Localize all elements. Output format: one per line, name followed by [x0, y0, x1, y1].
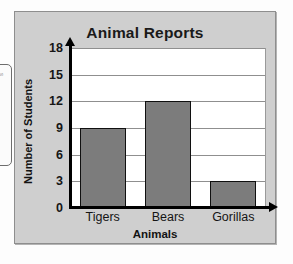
y-axis-tick-label: 15	[35, 68, 63, 81]
x-axis-line	[70, 206, 271, 209]
x-axis-title: Animals	[55, 228, 255, 240]
chart-panel: Animal Reports Number of Students 036912…	[14, 11, 276, 244]
y-axis-tick-label: 18	[35, 42, 63, 55]
y-axis-tick-label: 0	[35, 202, 63, 215]
plot-area	[70, 48, 266, 208]
chart-title: Animal Reports	[15, 24, 275, 42]
x-axis-tick-labels: TigersBearsGorillas	[70, 210, 270, 230]
scanned-page-background: s Animal Reports Number of Students 0369…	[0, 0, 293, 264]
y-axis-tick-label: 12	[35, 95, 63, 108]
x-axis-arrow-icon	[269, 202, 278, 212]
y-axis-tick-label: 3	[35, 175, 63, 188]
margin-cutoff-box: s	[0, 64, 12, 166]
gridline	[70, 48, 265, 49]
y-axis-title: Number of Students	[21, 56, 35, 206]
y-axis-line	[69, 45, 72, 209]
x-axis-tick-label: Gorillas	[201, 210, 266, 224]
bar-bears	[145, 101, 191, 208]
x-axis-tick-label: Bears	[135, 210, 200, 224]
y-axis-tick-label: 6	[35, 148, 63, 161]
x-axis-tick-label: Tigers	[70, 210, 135, 224]
bar-gorillas	[210, 181, 256, 208]
y-axis-tick-label: 9	[35, 122, 63, 135]
bar-tigers	[80, 128, 126, 208]
y-axis-tick-labels: 0369121518	[35, 48, 63, 208]
y-axis-arrow-icon	[65, 37, 75, 46]
margin-box-ghost-label: s	[0, 73, 4, 76]
gridline	[70, 75, 265, 76]
